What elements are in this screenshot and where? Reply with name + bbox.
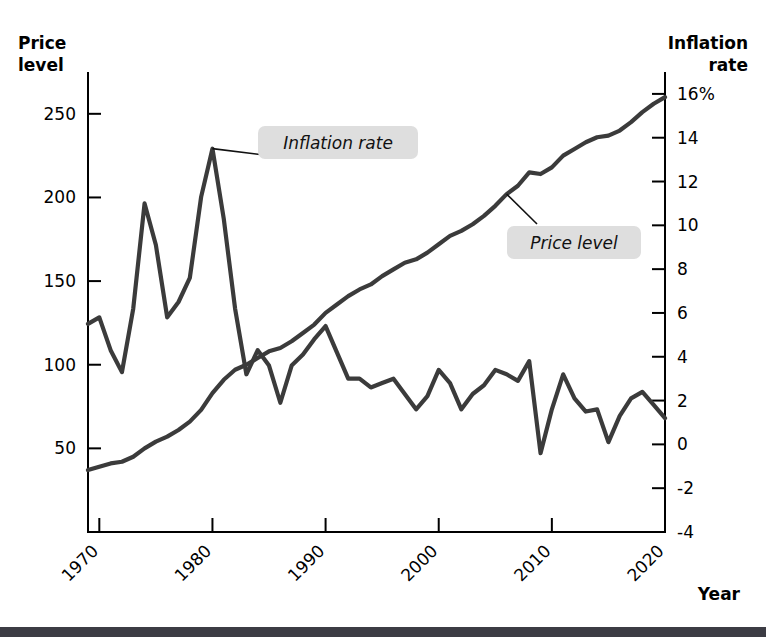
right-tick-label: 16% bbox=[677, 84, 715, 104]
left-axis-title-line2: level bbox=[18, 55, 64, 75]
right-tick-label: 4 bbox=[677, 347, 688, 367]
right-tick-label: 12 bbox=[677, 172, 699, 192]
left-tick-label: 100 bbox=[44, 355, 76, 375]
left-tick-label: 150 bbox=[44, 271, 76, 291]
annotation-label: Price level bbox=[530, 233, 618, 253]
inflation-price-level-chart: Price level Inflation rate Year 50100150… bbox=[0, 0, 766, 640]
bottom-decorative-bar bbox=[0, 627, 766, 637]
x-axis-title: Year bbox=[697, 584, 741, 604]
right-tick-label: 10 bbox=[677, 215, 699, 235]
left-tick-label: 250 bbox=[44, 104, 76, 124]
left-tick-label: 200 bbox=[44, 187, 76, 207]
right-tick-label: 0 bbox=[677, 434, 688, 454]
right-tick-label: 2 bbox=[677, 391, 688, 411]
left-axis-title-line1: Price bbox=[18, 33, 66, 53]
right-axis-title-line2: rate bbox=[708, 55, 748, 75]
right-axis-title-line1: Inflation bbox=[668, 33, 748, 53]
left-tick-label: 50 bbox=[54, 438, 76, 458]
right-tick-label: 8 bbox=[677, 259, 688, 279]
right-tick-label: -2 bbox=[677, 478, 694, 498]
right-tick-label: -4 bbox=[677, 522, 694, 542]
right-tick-label: 6 bbox=[677, 303, 688, 323]
annotation-label: Inflation rate bbox=[283, 133, 393, 153]
right-tick-label: 14 bbox=[677, 128, 699, 148]
